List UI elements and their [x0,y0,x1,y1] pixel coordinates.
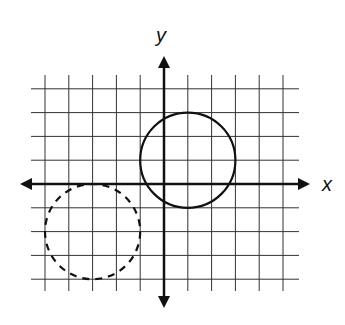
y-axis [158,56,170,308]
x-axis-left-arrow-icon [20,178,32,190]
x-axis-label: x [321,173,333,195]
coordinate-plane: x y [0,0,345,325]
y-axis-label: y [154,24,167,46]
x-axis-right-arrow-icon [298,178,310,190]
y-axis-up-arrow-icon [158,56,170,68]
y-axis-down-arrow-icon [158,296,170,308]
